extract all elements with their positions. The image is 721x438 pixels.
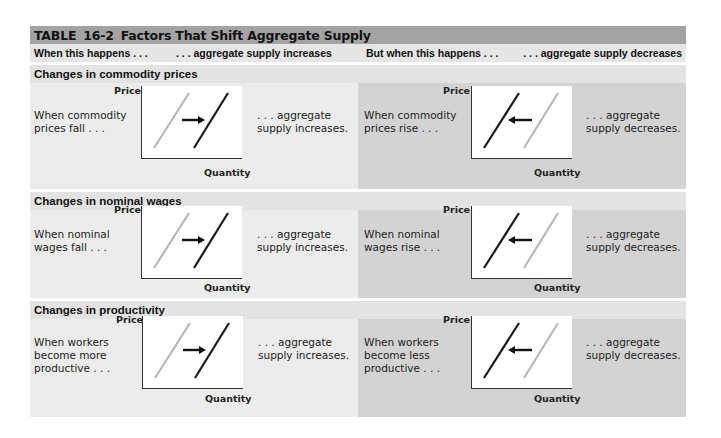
right-shift-graph-icon: [142, 206, 242, 278]
col-header-cause-decrease: But when this happens . . .: [366, 47, 498, 59]
column-headers: When this happens . . . . . . aggregate …: [30, 44, 686, 62]
cause-text: When workers become less productive . . …: [364, 336, 440, 375]
quantity-axis-label: Quantity: [534, 393, 581, 404]
panel-decrease: When nominal wages rise . . . Price Quan…: [358, 210, 686, 298]
price-axis-label: Price: [114, 85, 141, 96]
supply-shift-graph: [471, 316, 572, 389]
section-nominal-wages: Changes in nominal wages When nominal wa…: [30, 192, 686, 298]
left-shift-graph-icon: [472, 206, 572, 278]
supply-shift-graph: [471, 206, 572, 279]
col-header-cause-increase: When this happens . . .: [34, 47, 148, 59]
effect-text: . . . aggregate supply increases.: [258, 336, 349, 362]
table-title: Factors That Shift Aggregate Supply: [121, 28, 371, 43]
quantity-axis-label: Quantity: [204, 167, 251, 178]
price-axis-label: Price: [116, 314, 143, 325]
supply-shift-graph: [141, 86, 242, 159]
cause-text: When commodity prices fall . . .: [34, 109, 126, 135]
cause-text: When workers become more productive . . …: [34, 336, 110, 375]
table-title-bar: TABLE 16-2 Factors That Shift Aggregate …: [30, 26, 686, 44]
cause-text: When nominal wages fall . . .: [34, 228, 110, 254]
effect-text: . . . aggregate supply increases.: [257, 228, 348, 254]
panel-increase: When nominal wages fall . . . Price Quan…: [30, 210, 358, 298]
supply-shift-graph: [142, 316, 243, 389]
left-shift-graph-icon: [472, 316, 572, 388]
price-axis-label: Price: [443, 314, 470, 325]
factors-table: TABLE 16-2 Factors That Shift Aggregate …: [30, 26, 686, 417]
panel-decrease: When commodity prices rise . . . Price Q…: [358, 83, 686, 189]
supply-shift-graph: [471, 86, 572, 159]
right-shift-graph-icon: [142, 86, 242, 158]
table-number: 16-2: [83, 28, 113, 43]
panel-increase: When workers become more productive . . …: [30, 319, 358, 417]
panel-increase: When commodity prices fall . . . Price Q…: [30, 83, 358, 189]
quantity-axis-label: Quantity: [204, 282, 251, 293]
effect-text: . . . aggregate supply decreases.: [586, 336, 681, 362]
supply-shift-graph: [141, 206, 242, 279]
col-header-decrease: . . . aggregate supply decreases: [523, 47, 682, 59]
quantity-axis-label: Quantity: [534, 282, 581, 293]
effect-text: . . . aggregate supply decreases.: [586, 228, 681, 254]
cause-text: When commodity prices rise . . .: [364, 109, 456, 135]
quantity-axis-label: Quantity: [205, 393, 252, 404]
price-axis-label: Price: [443, 85, 470, 96]
quantity-axis-label: Quantity: [534, 167, 581, 178]
left-shift-graph-icon: [472, 86, 572, 158]
cause-text: When nominal wages rise . . .: [364, 228, 440, 254]
right-shift-graph-icon: [143, 316, 243, 388]
col-header-increase: . . . aggregate supply increases: [176, 47, 332, 59]
table-label: TABLE: [34, 28, 76, 43]
section-commodity-prices: Changes in commodity prices When commodi…: [30, 65, 686, 189]
section-productivity: Changes in productivity When workers bec…: [30, 301, 686, 417]
effect-text: . . . aggregate supply increases.: [257, 109, 348, 135]
panel-decrease: When workers become less productive . . …: [358, 319, 686, 417]
price-axis-label: Price: [114, 204, 141, 215]
effect-text: . . . aggregate supply decreases.: [586, 109, 681, 135]
section-title: Changes in commodity prices: [30, 65, 686, 83]
price-axis-label: Price: [443, 204, 470, 215]
